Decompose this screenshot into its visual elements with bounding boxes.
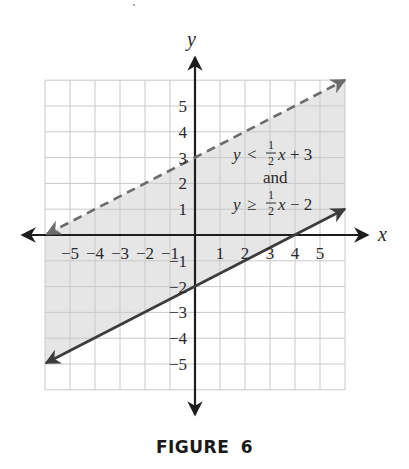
ann1-op: <	[247, 145, 257, 164]
x-tick-label: −5	[61, 244, 79, 263]
inequality-graph: x y −5−4−3−2−112345 54321−1−2−3−4−5 y < …	[0, 0, 409, 469]
figure-caption: FIGURE 6	[0, 437, 409, 457]
ann2-op: ≥	[247, 195, 256, 214]
y-tick-label: 5	[179, 97, 188, 116]
ann-and: and	[263, 168, 288, 187]
y-tick-label: −1	[169, 252, 187, 271]
y-tick-label: −4	[169, 329, 188, 348]
y-axis-label: y	[185, 28, 196, 51]
y-tick-label: −5	[169, 355, 187, 374]
y-tick-label: 2	[179, 174, 188, 193]
x-tick-label: −3	[111, 244, 129, 263]
y-tick-label: −2	[169, 278, 187, 297]
ann2-rest: − 2	[290, 195, 312, 214]
x-tick-label: 4	[291, 244, 300, 263]
ann2-y: y	[231, 195, 241, 214]
x-tick-label: 2	[241, 244, 250, 263]
x-tick-label: −4	[86, 244, 105, 263]
ann1-frac-den: 2	[268, 154, 274, 168]
ann2-frac-den: 2	[268, 204, 274, 218]
ann2-x: x	[277, 195, 286, 214]
y-tick-label: 3	[179, 149, 188, 168]
x-tick-label: 3	[266, 244, 275, 263]
x-tick-label: −2	[136, 244, 154, 263]
ann1-y: y	[231, 145, 241, 164]
y-tick-label: −3	[169, 303, 187, 322]
y-tick-label: 4	[179, 123, 188, 142]
y-tick-label: 1	[179, 200, 188, 219]
ann2-frac-num: 1	[268, 188, 274, 202]
x-tick-label: 1	[216, 244, 225, 263]
x-axis-label: x	[377, 223, 387, 245]
ann1-x: x	[277, 145, 286, 164]
x-tick-label: 5	[316, 244, 325, 263]
ann1-rest: + 3	[290, 145, 312, 164]
ann1-frac-num: 1	[268, 138, 274, 152]
